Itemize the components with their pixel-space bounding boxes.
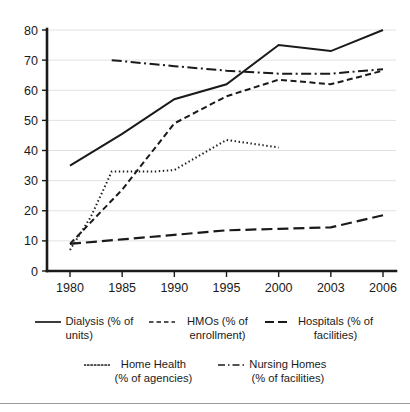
x-axis-tick-label: 1995 bbox=[213, 281, 241, 295]
dotted-line-swatch bbox=[84, 358, 110, 371]
x-axis-tick-label: 2003 bbox=[317, 281, 345, 295]
series-line-dash-dot bbox=[112, 60, 383, 74]
dash-dot-line-swatch bbox=[218, 358, 244, 371]
legend-item-nursing-homes: Nursing Homes (% of facilities) bbox=[218, 357, 326, 386]
plot-area: 01020304050607080 1980198519901995200020… bbox=[0, 0, 410, 300]
legend-item-home-health: Home Health (% of agencies) bbox=[84, 357, 193, 386]
x-axis-tick-label: 1980 bbox=[56, 281, 84, 295]
legend-label-hospitals: Hospitals (% of facilities) bbox=[296, 314, 376, 343]
legend-label-dialysis: Dialysis (% of units) bbox=[66, 314, 140, 343]
y-axis-tick-label: 20 bbox=[24, 204, 38, 218]
y-axis-tick-label: 50 bbox=[24, 114, 38, 128]
series-line-dashed bbox=[70, 71, 383, 244]
chart-legend: Dialysis (% of units) HMOs (% of enrollm… bbox=[0, 300, 410, 412]
solid-line-swatch bbox=[35, 315, 61, 328]
y-axis-labels: 01020304050607080 bbox=[24, 24, 38, 279]
data-series-group bbox=[70, 30, 383, 250]
line-chart-figure: 01020304050607080 1980198519901995200020… bbox=[0, 0, 410, 412]
legend-row-primary: Dialysis (% of units) HMOs (% of enrollm… bbox=[0, 300, 410, 343]
x-axis-tick-label: 2006 bbox=[369, 281, 397, 295]
legend-item-hospitals: Hospitals (% of facilities) bbox=[265, 314, 376, 343]
y-axis-tick-label: 0 bbox=[31, 265, 38, 279]
x-axis-labels: 1980198519901995200020032006 bbox=[56, 281, 397, 295]
legend-label-hmos: HMOs (% of enrollment) bbox=[180, 314, 256, 343]
y-axis-tick-label: 70 bbox=[24, 54, 38, 68]
footer-divider bbox=[0, 403, 410, 404]
x-axis-tick-label: 1990 bbox=[160, 281, 188, 295]
legend-row-secondary: Home Health (% of agencies) Nursing Home… bbox=[0, 343, 410, 386]
legend-label-home-health: Home Health (% of agencies) bbox=[115, 357, 193, 386]
y-axis-tick-label: 10 bbox=[24, 234, 38, 248]
y-axis-tick-label: 40 bbox=[24, 144, 38, 158]
legend-item-dialysis: Dialysis (% of units) bbox=[35, 314, 140, 343]
chart-svg: 01020304050607080 1980198519901995200020… bbox=[0, 0, 410, 300]
gridlines bbox=[47, 30, 396, 241]
legend-label-nursing-homes: Nursing Homes (% of facilities) bbox=[249, 357, 326, 386]
y-axis-tick-label: 30 bbox=[24, 174, 38, 188]
x-axis-tick-label: 1985 bbox=[108, 281, 136, 295]
legend-item-hmos: HMOs (% of enrollment) bbox=[149, 314, 256, 343]
y-axis-tick-label: 60 bbox=[24, 84, 38, 98]
series-line-solid bbox=[70, 30, 383, 166]
series-line-dotted bbox=[70, 140, 279, 250]
long-dash-line-swatch bbox=[265, 315, 291, 328]
x-axis-tick-label: 2000 bbox=[265, 281, 293, 295]
series-line-long-dash bbox=[70, 215, 383, 244]
y-axis-tick-label: 80 bbox=[24, 24, 38, 38]
dashed-line-swatch bbox=[149, 315, 175, 328]
